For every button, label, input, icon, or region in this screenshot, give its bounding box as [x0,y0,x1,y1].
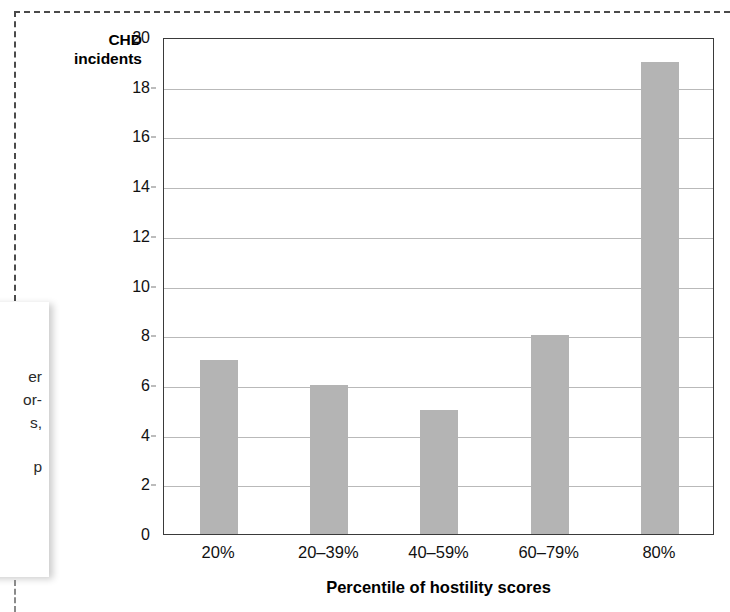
bar[interactable] [531,335,569,534]
y-axis-tick-label: 20 [132,29,150,47]
y-axis-tick-mark [151,385,156,386]
y-axis-tick-label: 0 [141,526,150,544]
x-axis-title: Percentile of hostility scores [163,578,714,597]
y-axis-tick-mark [151,336,156,337]
plot-area [163,38,714,535]
y-axis-tick-label: 16 [132,128,150,146]
bar[interactable] [310,385,348,534]
x-axis-tick-label: 60–79% [518,543,579,562]
bar-chart: CHD incidents 02468101214161820 20%20–39… [0,0,730,612]
y-axis-tick-mark [151,485,156,486]
y-axis-tick-label: 14 [132,178,150,196]
x-axis-tick-label: 20% [202,543,235,562]
bar[interactable] [420,410,458,534]
x-axis-tick-label: 40–59% [408,543,469,562]
x-axis-tick-label: 20–39% [298,543,359,562]
y-axis-tick-label: 12 [132,228,150,246]
bar-slot [164,39,274,534]
y-axis-tick-mark [151,187,156,188]
bar[interactable] [641,62,679,534]
y-axis-tick-mark [151,236,156,237]
y-axis-tick-label: 2 [141,476,150,494]
bar-slot [605,39,715,534]
bar-slot [495,39,605,534]
y-axis-tick-label: 8 [141,327,150,345]
y-axis-tick-label: 10 [132,278,150,296]
y-axis-tick-mark [151,435,156,436]
y-axis-tick-mark [151,87,156,88]
bar-series [164,39,713,534]
bar-slot [384,39,494,534]
y-axis-tick-label: 6 [141,377,150,395]
bar[interactable] [200,360,238,534]
x-axis-tick-label: 80% [642,543,675,562]
y-axis-tick-mark [151,286,156,287]
y-axis-tick-label: 4 [141,427,150,445]
bar-slot [274,39,384,534]
x-axis-tick-labels: 20%20–39%40–59%60–79%80% [163,543,714,569]
y-axis-tick-mark [151,137,156,138]
y-axis-tick-labels: 02468101214161820 [108,38,156,535]
y-axis-tick-label: 18 [132,79,150,97]
